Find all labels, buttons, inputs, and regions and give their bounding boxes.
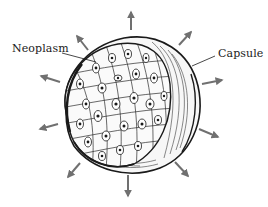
arrow-left-lower-icon xyxy=(40,124,58,129)
arrow-up-right-icon xyxy=(179,32,191,45)
capsule-label: Capsule xyxy=(218,47,263,60)
neoplasm-label: Neoplasm xyxy=(12,42,69,55)
arrow-right-lower-icon xyxy=(199,129,218,137)
arrow-down-left-icon xyxy=(68,163,80,177)
arrow-right-icon xyxy=(202,80,222,84)
neoplasm-illustration xyxy=(0,0,268,207)
capsule-leader-line xyxy=(192,56,215,66)
arrow-left-upper-icon xyxy=(41,76,60,82)
arrow-down-right-icon xyxy=(175,162,188,176)
arrow-up-left-icon xyxy=(77,36,88,50)
